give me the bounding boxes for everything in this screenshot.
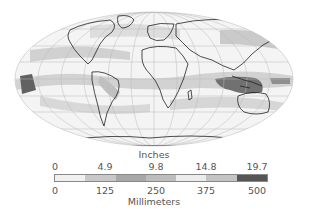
mm-tick-0: 0: [52, 186, 58, 196]
mm-tick-3: 375: [197, 186, 215, 196]
mm-tick-2: 250: [147, 186, 165, 196]
scale-segment-6: [206, 175, 236, 181]
scale-segment-4: [146, 175, 176, 181]
scale-segment-7: [237, 175, 267, 181]
mm-tick-1: 125: [96, 186, 114, 196]
world-precipitation-map: [0, 0, 309, 150]
inch-tick-4: 19.7: [246, 162, 267, 172]
scale-segment-3: [116, 175, 146, 181]
legend-title-inches: Inches: [139, 150, 170, 160]
legend-title-millimeters: Millimeters: [128, 197, 180, 207]
new-zealand: [276, 116, 286, 126]
map-globe: [15, 12, 293, 146]
scale-segment-2: [85, 175, 115, 181]
inch-tick-3: 14.8: [195, 162, 216, 172]
inch-tick-2: 9.8: [148, 162, 163, 172]
scale-segment-5: [176, 175, 206, 181]
inch-tick-0: 0: [52, 162, 58, 172]
mm-tick-4: 500: [248, 186, 266, 196]
color-scale-bar: [54, 174, 268, 182]
scale-segment-1: [55, 175, 85, 181]
inch-tick-1: 4.9: [97, 162, 112, 172]
